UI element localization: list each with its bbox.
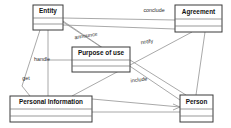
association-label-conclude: conclude bbox=[143, 7, 164, 13]
class-box-purpose-of-use[interactable]: Purpose of use bbox=[72, 47, 130, 72]
association-line-get bbox=[22, 30, 40, 96]
class-box-person[interactable]: Person bbox=[180, 95, 213, 122]
association-label-include: include bbox=[130, 75, 147, 83]
class-box-personal-information[interactable]: Personal Information bbox=[10, 96, 92, 122]
association-line-agreement-person bbox=[196, 32, 205, 95]
personal-class-name: Personal Information bbox=[19, 98, 83, 105]
association-label-handle: handle bbox=[34, 56, 50, 62]
class-box-entity[interactable]: Entity bbox=[33, 5, 63, 30]
entity-class-name: Entity bbox=[39, 7, 57, 15]
association-line-include bbox=[92, 99, 180, 107]
purpose-class-name: Purpose of use bbox=[78, 49, 125, 57]
uml-class-diagram: Entity Agreement Purpose of use Personal… bbox=[0, 0, 231, 128]
association-label-announce: announce bbox=[74, 31, 98, 41]
agreement-class-name: Agreement bbox=[182, 8, 216, 16]
association-line-entity-agreement-lower bbox=[63, 25, 175, 29]
person-class-name: Person bbox=[186, 98, 208, 105]
association-label-notify: notify bbox=[140, 38, 154, 46]
association-line-conclude bbox=[63, 18, 175, 20]
association-label-get: get bbox=[22, 75, 30, 81]
class-box-agreement[interactable]: Agreement bbox=[175, 5, 222, 32]
